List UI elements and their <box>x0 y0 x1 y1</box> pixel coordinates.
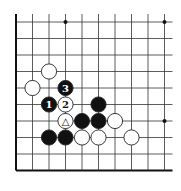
white-stone <box>91 130 106 145</box>
black-stone <box>91 113 106 128</box>
white-stone: △ <box>58 113 73 128</box>
star-point-icon <box>64 20 68 24</box>
black-stone <box>58 130 73 145</box>
white-stone: 2 <box>58 97 73 112</box>
black-stone <box>41 130 56 145</box>
white-stone <box>124 130 139 145</box>
black-stone: 1 <box>41 97 56 112</box>
white-stone <box>107 113 122 128</box>
black-stone <box>74 113 89 128</box>
white-stone <box>41 64 56 79</box>
go-board-diagram: 312△ <box>0 0 181 191</box>
triangle-marker-icon: △ <box>62 116 70 127</box>
white-stone <box>74 130 89 145</box>
white-stone <box>25 80 40 95</box>
black-stone: 3 <box>58 80 73 95</box>
move-number: 2 <box>62 99 69 110</box>
move-number: 3 <box>62 83 69 94</box>
board-grid <box>16 14 173 171</box>
move-number: 1 <box>46 99 53 110</box>
black-stone <box>91 97 106 112</box>
star-point-icon <box>163 119 167 123</box>
star-point-icon <box>163 20 167 24</box>
